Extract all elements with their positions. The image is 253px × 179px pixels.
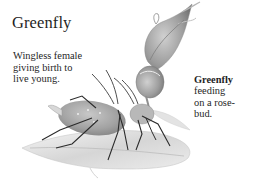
caption-line: feeding [194,85,253,96]
page-title: Greenfly [12,13,71,33]
caption-line: Wingless female [13,50,103,62]
caption-feeding-greenfly: Greenfly feeding on a rose- bud. [194,74,253,120]
caption-heading: Greenfly [194,74,253,85]
caption-wingless-female: Wingless female giving birth to live you… [13,50,103,85]
caption-line: bud. [194,108,253,119]
rosebud [136,2,200,116]
caption-line: giving birth to [13,62,103,74]
caption-line: on a rose- [194,97,253,108]
caption-line: live young. [13,73,103,85]
